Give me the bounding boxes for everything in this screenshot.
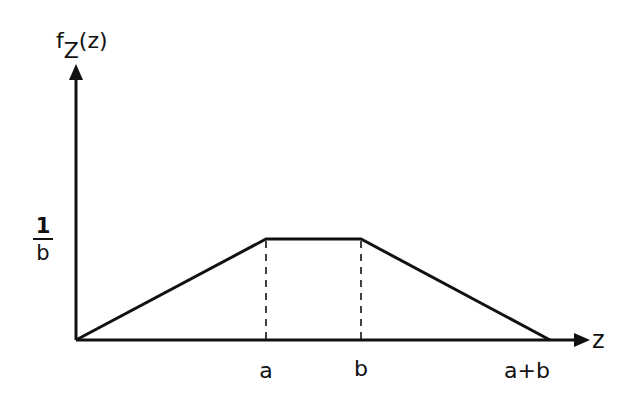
- x-axis-label: z: [592, 328, 605, 352]
- y-axis-label-arg: (z): [79, 28, 108, 53]
- y-tick-denominator: b: [33, 242, 53, 264]
- density-curve: [76, 239, 550, 340]
- y-tick-fraction: 1 b: [33, 215, 53, 264]
- y-tick-numerator: 1: [33, 215, 53, 237]
- y-axis-label-subscript: Z: [64, 38, 79, 63]
- y-axis-label: fZ(z): [56, 30, 108, 52]
- y-axis-label-main: f: [56, 28, 64, 53]
- x-tick-a: a: [259, 360, 272, 382]
- x-tick-b: b: [354, 358, 368, 380]
- y-axis-arrow-icon: [69, 64, 83, 80]
- density-plot: [0, 0, 634, 404]
- x-tick-a-plus-b: a+b: [504, 360, 550, 382]
- fraction-bar: [33, 238, 53, 240]
- x-axis-arrow-icon: [574, 333, 590, 347]
